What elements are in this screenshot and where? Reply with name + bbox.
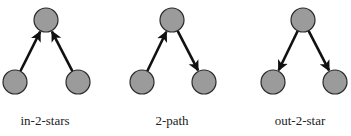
node-right: [66, 70, 90, 94]
directed-edge-top-to-right: [309, 31, 330, 71]
nodes-layer: [3, 8, 347, 94]
node-top: [34, 8, 58, 32]
node-left: [3, 70, 27, 94]
node-left: [130, 70, 154, 94]
node-top: [160, 8, 184, 32]
node-top: [291, 8, 315, 32]
edges-layer: [20, 31, 329, 72]
motif-label-in-2-stars: in-2-stars: [20, 113, 69, 129]
motif-label-out-2-star: out-2-star: [275, 113, 326, 129]
motif-label-2-path: 2-path: [155, 113, 188, 129]
node-left: [261, 70, 285, 94]
directed-edge-left-to-top: [147, 32, 166, 71]
node-right: [323, 70, 347, 94]
directed-edge-right-to-top: [52, 32, 73, 72]
node-right: [192, 70, 216, 94]
directed-edge-top-to-right: [178, 31, 199, 71]
directed-edge-left-to-top: [20, 32, 40, 72]
directed-edge-top-to-left: [279, 31, 298, 70]
